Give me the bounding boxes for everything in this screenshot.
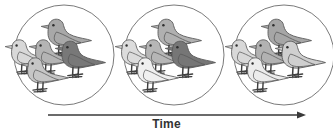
bird-body xyxy=(62,41,106,68)
panel-3 xyxy=(225,5,333,105)
bird-eye xyxy=(176,46,179,49)
bird-beak xyxy=(249,45,256,48)
bird-eye xyxy=(15,44,17,46)
bird-eye xyxy=(52,24,55,27)
bird-eye xyxy=(125,44,127,46)
bird-eye xyxy=(272,24,275,27)
bird-beak xyxy=(139,45,146,48)
bird-beak xyxy=(261,25,268,28)
bird-beak xyxy=(29,45,36,48)
bird-eye xyxy=(149,44,151,46)
bird-beak xyxy=(5,45,12,48)
bird-eye xyxy=(235,44,237,46)
bird-bird-1-right-dark xyxy=(55,41,105,77)
bird-eye xyxy=(66,46,69,49)
bird-eye xyxy=(286,46,289,49)
bird-eye xyxy=(162,24,165,27)
bird-eye xyxy=(251,62,253,64)
bird-bird-3-right-light xyxy=(275,41,325,77)
bird-body xyxy=(282,41,326,68)
panel-2 xyxy=(115,5,224,105)
bird-beak xyxy=(115,45,122,48)
bird-eye xyxy=(31,62,33,64)
axis-label-time: Time xyxy=(0,116,333,132)
bird-beak xyxy=(225,45,232,48)
bird-beak xyxy=(41,25,48,28)
bird-eye xyxy=(259,44,261,46)
bird-beak xyxy=(151,25,158,28)
bird-eye xyxy=(141,62,143,64)
bird-eye xyxy=(39,44,41,46)
bird-bird-2-right-dark xyxy=(165,41,215,77)
panel-1 xyxy=(5,5,114,105)
bird-body xyxy=(172,41,216,68)
